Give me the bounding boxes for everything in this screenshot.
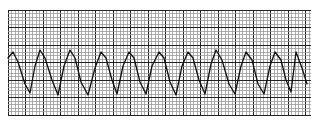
ecg-trace [8, 50, 307, 95]
ecg-strip [0, 0, 316, 125]
ecg-grid [8, 10, 311, 116]
